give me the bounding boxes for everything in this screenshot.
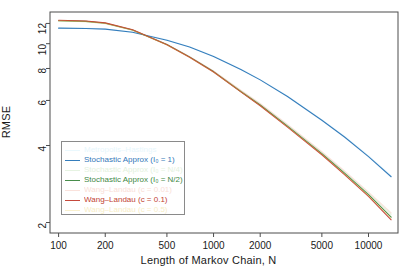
- y-tick-label: 12: [37, 23, 49, 34]
- y-axis-title: RMSE: [0, 92, 12, 152]
- x-tick-label: 5000: [311, 240, 333, 251]
- legend-item-label: Stochastic Approx (I₀ = N/4): [84, 165, 183, 175]
- legend-item: Wang–Landau (c = 0.01): [65, 185, 180, 195]
- legend-item-label: Wang–Landau (c = 0.5): [84, 205, 168, 215]
- legend-color-swatch: [65, 180, 80, 181]
- legend-item-label: Stochastic Approx (I₀ = N/2): [84, 175, 183, 185]
- legend-color-swatch: [65, 170, 80, 171]
- legend-item-label: Wang–Landau (c = 0.1): [84, 195, 168, 205]
- legend-color-swatch: [65, 200, 80, 201]
- legend-item-label: Wang–Landau (c = 0.01): [84, 185, 172, 195]
- x-tick-label: 500: [159, 240, 176, 251]
- legend-color-swatch: [65, 190, 80, 191]
- y-tick-label: 10: [37, 44, 49, 55]
- y-tick-label: 6: [37, 100, 49, 106]
- legend-item: Wang–Landau (c = 0.1): [65, 195, 180, 205]
- legend-color-swatch: [65, 160, 80, 161]
- y-tick-label: 8: [37, 68, 49, 74]
- chart-legend: Metropolis–HastingsStochastic Approx (I₀…: [61, 141, 185, 215]
- legend-item: Wang–Landau (c = 0.5): [65, 205, 180, 215]
- x-tick-label: 2000: [249, 240, 271, 251]
- x-tick-label: 100: [50, 240, 67, 251]
- chart-figure: 10020050010002000500010000 24681012 Leng…: [0, 0, 417, 279]
- legend-item: Metropolis–Hastings: [65, 145, 180, 155]
- x-tick-label: 1000: [202, 240, 224, 251]
- y-tick-label: 4: [37, 146, 49, 152]
- y-tick-label: 2: [37, 223, 49, 229]
- legend-item: Stochastic Approx (I₀ = 1): [65, 155, 180, 165]
- legend-item-label: Metropolis–Hastings: [84, 145, 156, 155]
- legend-item: Stochastic Approx (I₀ = N/2): [65, 175, 180, 185]
- plot-area: [0, 0, 417, 279]
- legend-color-swatch: [65, 210, 80, 211]
- x-tick-label: 10000: [355, 240, 383, 251]
- legend-color-swatch: [65, 150, 80, 151]
- legend-item-label: Stochastic Approx (I₀ = 1): [84, 155, 175, 165]
- legend-item: Stochastic Approx (I₀ = N/4): [65, 165, 180, 175]
- x-axis-title: Length of Markov Chain, N: [0, 254, 417, 266]
- x-tick-label: 200: [97, 240, 114, 251]
